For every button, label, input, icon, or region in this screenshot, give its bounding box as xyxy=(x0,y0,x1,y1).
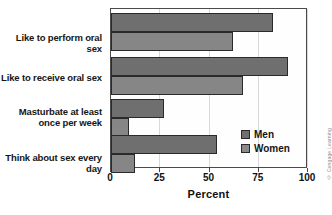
x-tick-label-100: 100 xyxy=(290,172,324,183)
x-tick-label-50: 50 xyxy=(192,172,226,183)
legend-item-men: Men xyxy=(241,128,299,141)
bar-women-3 xyxy=(111,154,135,173)
category-label-2: Masturbate at least once per week xyxy=(0,106,102,128)
bar-men-1 xyxy=(111,57,288,76)
category-label-3: Think about sex every day xyxy=(0,152,102,174)
x-tick-label-0: 0 xyxy=(93,172,127,183)
legend-item-women: Women xyxy=(241,142,299,155)
category-label-0: Like to perform oral sex xyxy=(0,32,102,54)
category-axis-labels: Like to perform oral sex Like to receive… xyxy=(0,8,106,168)
chart-legend: Men Women xyxy=(241,128,299,156)
bar-women-0 xyxy=(111,32,233,51)
copyright-credit: © Cengage Learning xyxy=(326,128,332,180)
gridline-100 xyxy=(307,9,308,167)
bar-men-3 xyxy=(111,135,217,154)
category-label-1: Like to receive oral sex xyxy=(0,72,102,83)
legend-label-men: Men xyxy=(254,129,274,140)
bar-men-0 xyxy=(111,13,273,32)
x-tick-label-25: 25 xyxy=(142,172,176,183)
bar-chart-figure: Like to perform oral sex Like to receive… xyxy=(0,0,332,215)
legend-label-women: Women xyxy=(254,143,290,154)
legend-swatch-men-icon xyxy=(241,130,250,139)
legend-swatch-women-icon xyxy=(241,144,250,153)
x-axis-title: Percent xyxy=(110,188,307,200)
bar-women-1 xyxy=(111,76,243,95)
x-tick-label-75: 75 xyxy=(241,172,275,183)
bar-men-2 xyxy=(111,99,164,118)
